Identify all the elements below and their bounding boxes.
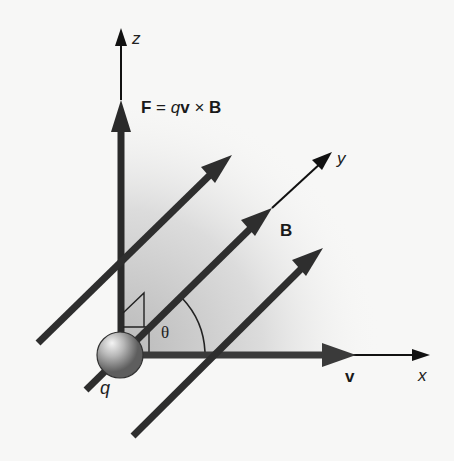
field-label: B (280, 221, 292, 240)
x-axis-arrowhead (412, 349, 430, 361)
z-axis-label: z (131, 29, 141, 48)
lorentz-force-diagram: z F = qv × B θ x v y B q (0, 0, 454, 461)
formula-F: F (141, 98, 151, 117)
x-axis-label: x (417, 366, 427, 385)
charge-label: q (100, 378, 110, 398)
formula-B: B (209, 98, 221, 117)
charge-sphere (97, 332, 143, 378)
formula-equals: = (151, 98, 170, 117)
z-axis-arrowhead (115, 28, 127, 46)
velocity-label: v (345, 367, 355, 386)
formula: F = qv × B (141, 98, 221, 117)
theta-label: θ (161, 323, 169, 342)
formula-times: × (190, 98, 209, 117)
y-axis-label: y (336, 149, 347, 168)
